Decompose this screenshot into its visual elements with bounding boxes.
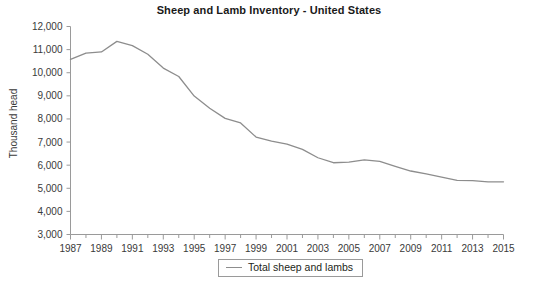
x-axis-tick-label: 1995 — [183, 243, 206, 254]
y-axis-tick-label: 4,000 — [37, 206, 62, 217]
y-axis-tick-label: 6,000 — [37, 160, 62, 171]
x-axis-tick-label: 1997 — [214, 243, 237, 254]
x-axis-tick-label: 2011 — [431, 243, 453, 254]
chart-container: Sheep and Lamb Inventory - United States… — [0, 0, 538, 282]
y-axis-tick-label: 10,000 — [32, 67, 63, 78]
x-axis-tick-label: 2005 — [338, 243, 361, 254]
x-axis-tick-label: 2007 — [369, 243, 392, 254]
data-series-line-0 — [71, 41, 504, 181]
x-axis-tick-label: 2013 — [461, 243, 484, 254]
y-axis-tick-label: 12,000 — [32, 21, 63, 32]
legend-label-total-sheep-and-lambs: Total sheep and lambs — [248, 262, 353, 273]
x-axis-tick-label: 1999 — [245, 243, 268, 254]
x-axis-tick-label: 1991 — [121, 243, 144, 254]
x-axis-tick-label: 2015 — [492, 243, 515, 254]
y-axis-tick-label: 7,000 — [37, 137, 62, 148]
y-axis-tick-label: 9,000 — [37, 90, 62, 101]
x-axis-tick-label: 2001 — [276, 243, 299, 254]
line-chart-plot: 12,00011,00010,0009,0008,0007,0006,0005,… — [0, 0, 538, 282]
chart-legend: Total sheep and lambs — [218, 259, 363, 277]
x-axis-tick-label: 1989 — [90, 243, 113, 254]
x-axis-tick-label: 1987 — [59, 243, 82, 254]
y-axis-tick-label: 8,000 — [37, 113, 62, 124]
x-axis-tick-label: 1993 — [152, 243, 175, 254]
y-axis-tick-label: 5,000 — [37, 183, 62, 194]
legend-line-swatch — [226, 267, 242, 268]
x-axis-tick-label: 2003 — [307, 243, 330, 254]
x-axis-tick-label: 2009 — [400, 243, 423, 254]
y-axis-tick-label: 11,000 — [33, 44, 63, 55]
y-axis-tick-label: 3,000 — [37, 229, 62, 240]
